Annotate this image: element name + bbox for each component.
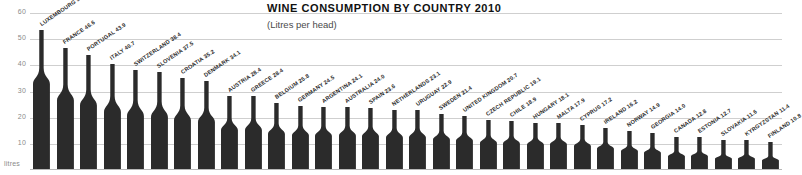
x-axis-baseline: [30, 169, 782, 170]
bar-label: CZECH REPUBLIC 19.1: [485, 76, 542, 117]
bar-label: AUSTRALIA 24.0: [344, 73, 386, 104]
bottle-icon: [57, 48, 74, 170]
bottle-icon: [268, 103, 285, 170]
bar-czech-republic[interactable]: CZECH REPUBLIC 19.1: [480, 120, 497, 170]
bar-label: AUSTRIA 28.4: [226, 66, 262, 93]
bar-georgia[interactable]: GEORGIA 14.0: [644, 133, 661, 170]
bottle-icon: [621, 131, 638, 170]
bar-label: LUXEMBOURG 53.5: [38, 0, 87, 27]
bottle-icon: [574, 125, 591, 170]
bar-label: SWEDEN 21.4: [438, 85, 473, 112]
bar-label: ESTONIA 12.7: [696, 107, 732, 134]
bar-label: FRANCE 46.6: [62, 19, 96, 45]
bar-label: IRELAND 16.2: [602, 98, 638, 125]
bottle-icon: [668, 137, 685, 170]
bottle-icon: [386, 110, 403, 170]
bar-cyprus[interactable]: CYPRUS 17.2: [574, 125, 591, 170]
bottle-icon: [715, 140, 732, 170]
bottle-icon: [456, 116, 473, 170]
bar-luxembourg[interactable]: LUXEMBOURG 53.5: [33, 30, 50, 170]
bar-denmark[interactable]: DENMARK 34.1: [198, 81, 215, 170]
bottle-icon: [315, 107, 332, 170]
bars-layer: LUXEMBOURG 53.5FRANCE 46.6PORTUGAL 43.9I…: [30, 8, 782, 170]
bar-france[interactable]: FRANCE 46.6: [57, 48, 74, 170]
bar-label: SLOVENIA 37.5: [156, 40, 195, 69]
bar-hungary[interactable]: HUNGARY 18.1: [527, 123, 544, 170]
bar-label: CHILE 18.9: [508, 95, 537, 117]
bottle-icon: [409, 110, 426, 170]
plot-area: 605040302010 LUXEMBOURG 53.5FRANCE 46.6P…: [30, 8, 782, 170]
bottle-icon: [433, 114, 450, 170]
bar-label: MALTA 17.9: [555, 97, 585, 120]
bar-label: PORTUGAL 43.9: [85, 22, 126, 53]
bottle-icon: [245, 96, 262, 170]
bottle-icon: [362, 108, 379, 170]
bar-label: CROATIA 35.2: [179, 48, 215, 75]
bar-belgium[interactable]: BELGIUM 25.8: [268, 103, 285, 170]
bar-austria[interactable]: AUSTRIA 28.4: [221, 96, 238, 170]
bar-kyrgyzstan[interactable]: KYRGYZSTAN 11.4: [738, 140, 755, 170]
bar-sweden[interactable]: SWEDEN 21.4: [433, 114, 450, 170]
bar-label: UNITED KINGDOM 20.7: [461, 72, 518, 113]
bar-label: GREECE 28.4: [250, 67, 285, 93]
bar-label: BELGIUM 25.8: [273, 72, 310, 99]
bar-italy[interactable]: ITALY 40.7: [104, 64, 121, 170]
bottle-icon: [292, 106, 309, 170]
y-axis-tick: 60: [18, 8, 26, 15]
bar-uruguay[interactable]: URUGUAY 22.9: [409, 110, 426, 170]
bar-chile[interactable]: CHILE 18.9: [503, 121, 520, 170]
y-axis-tick: 50: [18, 34, 26, 41]
bar-label: GERMANY 24.5: [297, 74, 336, 103]
bar-australia[interactable]: AUSTRALIA 24.0: [339, 107, 356, 170]
bar-label: CYPRUS 17.2: [579, 96, 613, 122]
bar-label: GEORGIA 14.0: [649, 103, 686, 131]
y-axis-tick: 20: [18, 113, 26, 120]
bar-label: NETHERLANDS 23.1: [391, 70, 442, 107]
bottle-icon: [221, 96, 238, 170]
bar-argentina[interactable]: ARGENTINA 24.1: [315, 107, 332, 170]
bottle-icon: [503, 121, 520, 170]
bottle-icon: [644, 133, 661, 170]
bar-finland[interactable]: FINLAND 10.8: [762, 142, 779, 170]
bar-label: ITALY 40.7: [109, 39, 136, 60]
bar-greece[interactable]: GREECE 28.4: [245, 96, 262, 170]
bar-germany[interactable]: GERMANY 24.5: [292, 106, 309, 170]
bar-label: ARGENTINA 24.1: [320, 72, 363, 104]
bar-malta[interactable]: MALTA 17.9: [550, 123, 567, 170]
bottle-icon: [33, 30, 50, 170]
bar-ireland[interactable]: IRELAND 16.2: [597, 128, 614, 170]
bottle-icon: [80, 55, 97, 170]
bar-label: FINLAND 10.8: [767, 112, 802, 139]
bottle-icon: [104, 64, 121, 170]
bottle-icon: [480, 120, 497, 170]
bar-estonia[interactable]: ESTONIA 12.7: [691, 137, 708, 170]
bar-slovenia[interactable]: SLOVENIA 37.5: [151, 72, 168, 170]
y-axis-tick: 40: [18, 60, 26, 67]
bar-spain[interactable]: SPAIN 23.6: [362, 108, 379, 170]
bottle-icon: [762, 142, 779, 170]
bar-label: CANADA 12.8: [673, 107, 708, 133]
bar-croatia[interactable]: CROATIA 35.2: [174, 78, 191, 170]
bottle-icon: [198, 81, 215, 170]
bar-label: NORWAY 14.9: [626, 102, 661, 129]
bar-label: SWITZERLAND 38.4: [132, 31, 181, 67]
bottle-icon: [151, 72, 168, 170]
bar-norway[interactable]: NORWAY 14.9: [621, 131, 638, 170]
bar-label: DENMARK 34.1: [203, 49, 242, 78]
bar-portugal[interactable]: PORTUGAL 43.9: [80, 55, 97, 170]
bar-label: SLOVAKIA 11.6: [720, 108, 758, 137]
bar-united-kingdom[interactable]: UNITED KINGDOM 20.7: [456, 116, 473, 170]
bottle-icon: [127, 70, 144, 170]
bottle-icon: [339, 107, 356, 170]
bottle-icon: [174, 78, 191, 170]
y-axis-tick: 30: [18, 87, 26, 94]
bar-switzerland[interactable]: SWITZERLAND 38.4: [127, 70, 144, 170]
bar-slovakia[interactable]: SLOVAKIA 11.6: [715, 140, 732, 170]
bar-canada[interactable]: CANADA 12.8: [668, 137, 685, 170]
bar-label: SPAIN 23.6: [367, 83, 396, 105]
bottle-icon: [550, 123, 567, 170]
bar-netherlands[interactable]: NETHERLANDS 23.1: [386, 110, 403, 170]
bar-label: URUGUAY 22.9: [414, 79, 452, 107]
bottle-icon: [597, 128, 614, 170]
